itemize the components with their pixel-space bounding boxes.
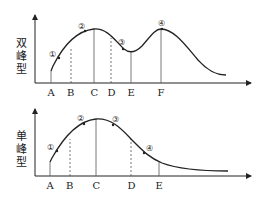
- point-1: [56, 150, 58, 152]
- marker-label: ①: [47, 143, 54, 152]
- marker-label: ④: [146, 144, 153, 153]
- marker-label: ③: [112, 115, 119, 124]
- marker-label: ③: [118, 38, 125, 47]
- tick-D: D: [128, 180, 136, 191]
- point-3: [122, 48, 124, 50]
- ylabel-char: 双: [16, 37, 27, 50]
- single-peak-diagram: 单 峰 型 ① ② ③ ④ A B C D E: [16, 109, 251, 191]
- ylabel-char: 型: [16, 62, 27, 76]
- marker-label: ②: [77, 114, 84, 123]
- tick-E: E: [156, 180, 163, 191]
- double-peak-diagram: 双 峰 型 ① ② ③ ④ A B C D E F: [16, 15, 251, 98]
- curve: [50, 119, 228, 171]
- marker-label: ④: [158, 19, 165, 28]
- point-3: [112, 124, 114, 126]
- ylabel-char: 峰: [16, 50, 27, 63]
- marker-label: ②: [78, 22, 85, 31]
- diagram-canvas: 双 峰 型 ① ② ③ ④ A B C D E F 单 峰 型: [0, 0, 264, 202]
- point-4: [161, 28, 163, 30]
- tick-A: A: [46, 180, 55, 191]
- tick-D: D: [108, 87, 116, 98]
- tick-C: C: [93, 180, 101, 191]
- point-1: [58, 57, 60, 59]
- ylabel-char: 峰: [16, 143, 27, 156]
- tick-B: B: [66, 180, 73, 191]
- tick-F: F: [158, 87, 165, 98]
- ylabel-char: 型: [16, 155, 27, 169]
- tick-C: C: [91, 87, 99, 98]
- point-2: [83, 123, 85, 125]
- tick-E: E: [128, 87, 135, 98]
- tick-A: A: [47, 87, 56, 98]
- point-4: [143, 152, 145, 154]
- tick-B: B: [67, 87, 74, 98]
- ylabel-char: 单: [16, 130, 27, 143]
- marker-label: ①: [49, 50, 56, 59]
- curve: [51, 29, 226, 75]
